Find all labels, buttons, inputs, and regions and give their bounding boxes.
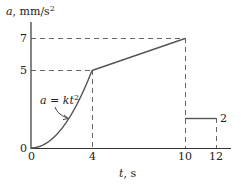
- linear-segment: [92, 39, 185, 71]
- parabolic-segment: [31, 71, 92, 149]
- x-tick-12: 12: [209, 150, 223, 163]
- x-axis-label: t, s: [119, 167, 136, 180]
- y-tick-0: 0: [20, 142, 27, 155]
- y-tick-5: 5: [20, 64, 27, 77]
- x-tick-4: 4: [89, 150, 96, 163]
- curve-equation-label: a = kt2: [40, 93, 79, 107]
- constant-value-label: 2: [220, 112, 227, 125]
- x-tick-10: 10: [178, 150, 192, 163]
- y-tick-7: 7: [20, 32, 27, 45]
- x-tick-0: 0: [28, 150, 35, 163]
- acceleration-time-chart: a, mm/s2 7 5 0 0 4 10 12 t, s a = kt2 2: [0, 0, 241, 185]
- y-axis-label: a, mm/s2: [6, 4, 55, 18]
